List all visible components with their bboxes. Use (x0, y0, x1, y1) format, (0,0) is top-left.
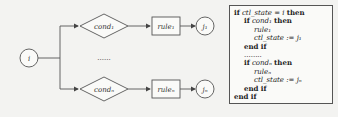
rule-1-label: rule₁ (157, 23, 174, 31)
start-node-label: i (28, 55, 30, 63)
flow-diagram: i cond₁ condₙ rule₁ ruleₙ j₁ jₙ ...... (0, 0, 230, 117)
pseudocode-box: if ctl_state = i then if cond₁ then rule… (229, 5, 333, 104)
code-line: end if (244, 43, 267, 51)
target-n-label: jₙ (200, 86, 207, 94)
condition-n-label: condₙ (94, 86, 114, 94)
condition-1-label: cond₁ (94, 23, 114, 31)
code-line: rule₁ (254, 26, 271, 34)
rule-n-label: ruleₙ (157, 86, 174, 94)
code-line: ruleₙ (254, 68, 271, 76)
code-line: end if (234, 93, 257, 101)
target-1-label: j₁ (201, 23, 208, 31)
ellipsis: ...... (97, 54, 110, 62)
code-line: if condₙ then (244, 59, 292, 67)
code-line: if cond₁ then (244, 17, 292, 25)
